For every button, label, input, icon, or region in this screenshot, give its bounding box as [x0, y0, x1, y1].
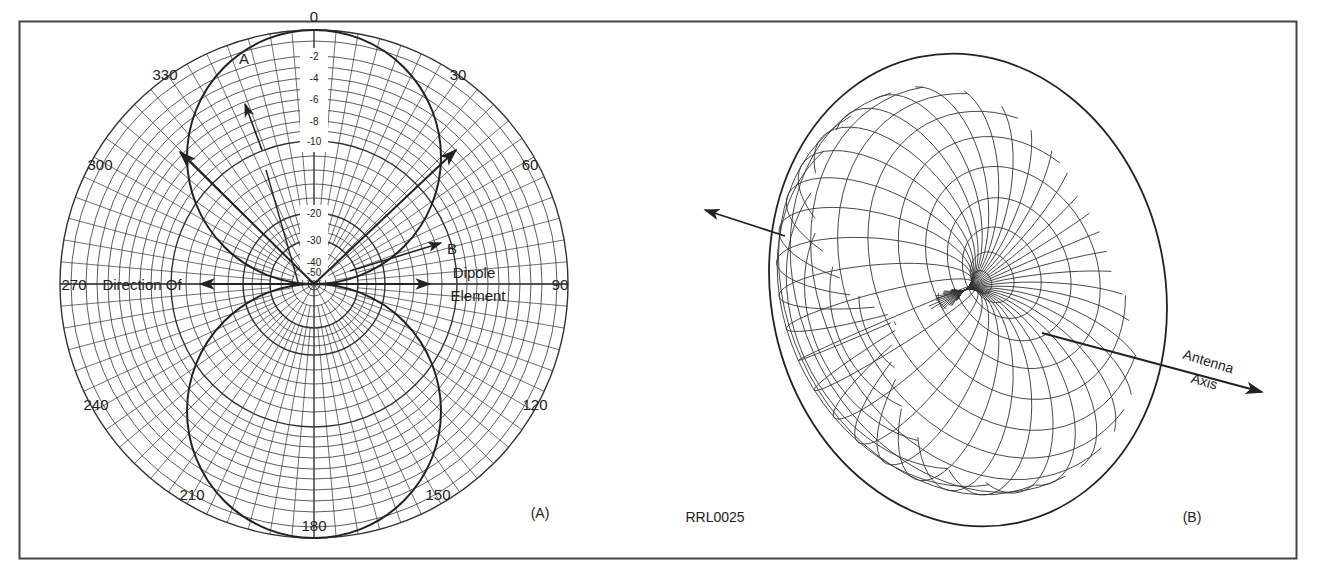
angle-label: 300: [87, 156, 112, 173]
angle-label: 0: [310, 8, 318, 25]
direction-of-label: Direction Of: [102, 276, 182, 293]
angle-label: 210: [179, 486, 204, 503]
point-a-label: A: [239, 50, 249, 67]
angle-label: 120: [522, 396, 547, 413]
db-label: -4: [310, 73, 319, 84]
point-b-label: B: [447, 240, 457, 257]
angle-label: 30: [450, 66, 467, 83]
angle-label: 150: [425, 486, 450, 503]
figure-id-label: RRL0025: [685, 509, 744, 525]
db-label: -30: [307, 235, 322, 246]
angle-label: 90: [552, 276, 569, 293]
db-label: -20: [307, 208, 322, 219]
figure-canvas: 0306090120150180210240270300330-2-4-6-8-…: [0, 0, 1317, 577]
db-label: -10: [307, 136, 322, 147]
angle-label: 180: [301, 517, 326, 534]
angle-label: 330: [152, 66, 177, 83]
toroid-3d-pattern: [705, 16, 1262, 564]
dipole-label: Dipole: [453, 264, 496, 281]
db-label: -2: [310, 51, 319, 62]
figure-frame: [20, 22, 1297, 559]
db-label: -50: [307, 267, 322, 278]
angle-label: 240: [83, 396, 108, 413]
panel-b-label: (B): [1183, 509, 1202, 525]
db-label: -8: [310, 116, 319, 127]
angle-label: 270: [61, 276, 86, 293]
toroid-outline: [726, 16, 1210, 564]
antenna-axis-label-2: Axis: [1189, 370, 1219, 393]
db-label: -6: [310, 94, 319, 105]
panel-a-label: (A): [531, 505, 550, 521]
angle-label: 60: [522, 156, 539, 173]
element-label: Element: [450, 287, 506, 304]
